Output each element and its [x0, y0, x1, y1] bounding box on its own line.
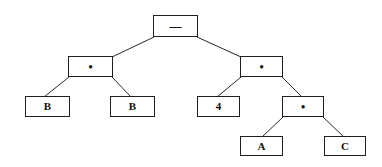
node-operand-four: 4 — [197, 96, 240, 117]
edge-mul-lower-to-c — [323, 117, 344, 137]
edge-mul-left-to-b2 — [112, 77, 131, 97]
node-multiply-left: • — [68, 56, 113, 77]
node-label: — — [170, 20, 182, 32]
edge-mul-left-to-b1 — [44, 77, 69, 97]
node-label: C — [341, 141, 349, 152]
node-operand-a: A — [240, 136, 283, 156]
node-label: • — [259, 61, 263, 73]
edge-mul-right-to-mul-lower — [282, 77, 302, 97]
node-label: B — [44, 101, 51, 112]
edge-root-to-mul-right — [197, 37, 241, 57]
node-label: • — [301, 101, 305, 113]
node-multiply-right: • — [240, 56, 283, 77]
edge-mul-right-to-four — [217, 77, 241, 97]
node-operand-c: C — [324, 136, 366, 156]
edge-root-to-mul-left — [112, 37, 154, 57]
node-label: B — [129, 101, 136, 112]
node-label: A — [258, 141, 266, 152]
node-operand-b-left: B — [25, 96, 70, 117]
node-label: • — [88, 61, 92, 73]
node-operand-b-right: B — [110, 96, 155, 117]
node-multiply-lower: • — [282, 96, 324, 117]
node-root-subtract: — — [153, 15, 198, 37]
node-label: 4 — [216, 101, 222, 112]
edge-mul-lower-to-a — [262, 117, 283, 137]
